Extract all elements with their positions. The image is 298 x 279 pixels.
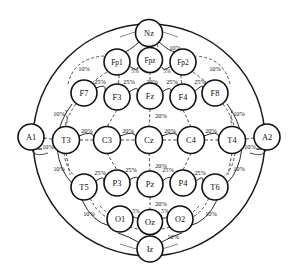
percent-label-a1-t3: 10%: [42, 143, 54, 150]
electrode-label-f4: F4: [179, 93, 189, 102]
percent-label-fp1-outer: 10%: [78, 65, 90, 72]
electrode-label-fp2: Fp2: [177, 58, 189, 67]
electrode-fz[interactable]: Fz: [137, 83, 163, 109]
electrode-cz[interactable]: Cz: [136, 127, 163, 154]
percent-label-c4-t4: 20%: [205, 127, 217, 134]
percent-label-p4-t6: 25%: [194, 169, 206, 176]
percent-label-t6-o2: 10%: [205, 210, 217, 217]
percent-label-t5-o1: 10%: [83, 210, 95, 217]
electrode-f8[interactable]: F8: [202, 80, 228, 106]
electrode-p3[interactable]: P3: [104, 170, 130, 196]
electrode-label-t4: T4: [227, 136, 237, 145]
electrode-p4[interactable]: P4: [170, 170, 196, 196]
electrode-label-c4: C4: [186, 136, 197, 145]
electrode-f3[interactable]: F3: [104, 84, 130, 110]
electrode-label-fp1: Fp1: [111, 58, 123, 67]
percent-label-t3-t5: 10%: [53, 165, 65, 172]
electrode-iz[interactable]: Iz: [137, 236, 163, 262]
percent-label-fpz-fp2: 5%: [163, 68, 171, 74]
electrode-label-o2: O2: [175, 215, 185, 224]
electrode-label-o1: O1: [115, 215, 125, 224]
electrode-f4[interactable]: F4: [170, 84, 196, 110]
percent-label-t5-p3: 25%: [94, 169, 106, 176]
percent-label-fz-cz: 20%: [155, 112, 167, 119]
electrode-label-nz: Nz: [144, 29, 154, 38]
electrode-o1[interactable]: O1: [107, 206, 133, 232]
eeg-electrode-diagram: NzFp1FpzFp2F7F3FzF4F8A1T3C3CzC4T4A2T5P3P…: [0, 0, 298, 279]
electrode-t4[interactable]: T4: [219, 127, 246, 154]
electrode-label-fz: Fz: [146, 92, 155, 101]
percent-label-fz-f4: 25%: [166, 78, 178, 85]
electrode-label-p4: P4: [179, 179, 189, 188]
electrode-t5[interactable]: T5: [71, 174, 97, 200]
electrode-label-fpz: Fpz: [144, 56, 156, 65]
electrode-label-oz: Oz: [145, 218, 155, 227]
percent-label-fp2-outer: 10%: [209, 65, 221, 72]
electrode-label-f8: F8: [211, 89, 220, 98]
electrode-label-c3: C3: [102, 136, 112, 145]
percent-label-f8-t4: 10%: [233, 110, 245, 117]
percent-label-f7-t3: 10%: [53, 110, 65, 117]
percent-label-cz-c4: 20%: [164, 127, 176, 134]
percent-label-t3-c3: 20%: [81, 127, 93, 134]
electrode-t3[interactable]: T3: [53, 127, 80, 154]
electrode-label-iz: Iz: [147, 245, 154, 254]
percent-label-oz-iz: 10%: [167, 233, 179, 240]
electrode-oz[interactable]: Oz: [138, 210, 163, 235]
percent-label-nz-fpz: 10%: [169, 44, 181, 51]
percent-label-f3-fz: 25%: [123, 78, 135, 85]
electrode-c3[interactable]: C3: [94, 127, 121, 154]
eeg-diagram-canvas: NzFp1FpzFp2F7F3FzF4F8A1T3C3CzC4T4A2T5P3P…: [0, 0, 298, 279]
electrode-f7[interactable]: F7: [71, 80, 97, 106]
electrode-label-a2: A2: [262, 133, 272, 142]
electrode-fp1[interactable]: Fp1: [104, 49, 130, 75]
electrode-pz[interactable]: Pz: [137, 171, 163, 197]
electrode-fpz[interactable]: Fpz: [138, 48, 163, 73]
electrode-label-cz: Cz: [144, 136, 154, 145]
percent-label-pz-oz: 20%: [155, 200, 167, 207]
electrode-label-pz: Pz: [146, 180, 155, 189]
electrode-nodes: NzFp1FpzFp2F7F3FzF4F8A1T3C3CzC4T4A2T5P3P…: [18, 20, 280, 263]
electrode-label-t3: T3: [61, 136, 70, 145]
electrode-fp2[interactable]: Fp2: [170, 49, 196, 75]
electrode-label-t6: T6: [210, 183, 219, 192]
percent-label-f4-f8: 25%: [194, 78, 206, 85]
electrode-c4[interactable]: C4: [178, 127, 205, 154]
percent-label-pz-p4: 25%: [162, 166, 174, 173]
percent-label-oz-o2: 5%: [161, 208, 169, 214]
electrode-label-a1: A1: [26, 133, 36, 142]
electrode-label-f7: F7: [80, 89, 89, 98]
electrode-label-f3: F3: [113, 93, 122, 102]
electrode-t6[interactable]: T6: [202, 174, 228, 200]
electrode-label-p3: P3: [113, 179, 122, 188]
percent-label-o1-oz: 5%: [132, 208, 140, 214]
percent-label-t4-a2: 10%: [244, 143, 256, 150]
percent-label-p3-pz: 25%: [125, 166, 137, 173]
percent-label-c3-cz: 20%: [122, 127, 134, 134]
percent-label-fpz-fz: 20%: [146, 78, 158, 85]
percent-label-t4-t6: 10%: [233, 165, 245, 172]
electrode-a1[interactable]: A1: [18, 124, 44, 150]
electrode-a2[interactable]: A2: [254, 124, 280, 150]
electrode-label-t5: T5: [79, 183, 88, 192]
percent-label-fp1-fpz: 5%: [131, 68, 139, 74]
percent-label-f7-f3: 25%: [94, 78, 106, 85]
electrode-nz[interactable]: Nz: [136, 20, 163, 47]
electrode-o2[interactable]: O2: [167, 206, 193, 232]
